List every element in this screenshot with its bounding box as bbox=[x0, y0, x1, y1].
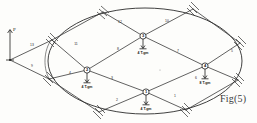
figure-canvas: .ln{stroke:#2e2e2e;stroke-width:0.75;fil… bbox=[0, 0, 257, 123]
diagram-svg: .ln{stroke:#2e2e2e;stroke-width:0.75;fil… bbox=[0, 0, 257, 123]
support-left-lower bbox=[43, 72, 55, 86]
member-label: 9 bbox=[31, 64, 33, 68]
member-label: 10 bbox=[165, 19, 169, 23]
support-right-lower bbox=[232, 73, 244, 87]
figure-caption: Fig(5) bbox=[220, 93, 246, 104]
node-4: 4 8 T.gm bbox=[200, 63, 211, 85]
member-label: 6 bbox=[195, 76, 197, 80]
node-3-load: 4 T.gm bbox=[138, 51, 149, 55]
member-label: 5 bbox=[231, 49, 233, 53]
stray-mark bbox=[160, 70, 161, 71]
member-label: 8 bbox=[117, 47, 119, 51]
member-label: 3 bbox=[111, 76, 113, 80]
node-1-load: 4 T.gm bbox=[141, 107, 152, 111]
force-p-arrow bbox=[6, 30, 14, 61]
member-label: 1 bbox=[174, 94, 176, 98]
member-label: 4 bbox=[69, 71, 71, 75]
supports-group bbox=[43, 2, 246, 119]
node-2: 2 4 T.gm bbox=[82, 67, 93, 89]
support-top-left bbox=[97, 6, 109, 19]
node-1: 1 4 T.gm bbox=[141, 89, 152, 111]
member-labels: 1 2 3 4 5 6 7 8 9 10 11 12 13 bbox=[30, 19, 233, 102]
member-label: 2 bbox=[116, 98, 118, 102]
member-label: 11 bbox=[74, 42, 78, 46]
member-label: 12 bbox=[118, 20, 122, 24]
member-label: 7 bbox=[177, 49, 179, 53]
truss-members bbox=[10, 9, 240, 112]
node-4-load: 8 T.gm bbox=[200, 81, 211, 85]
node-2-load: 4 T.gm bbox=[82, 85, 93, 89]
member-label: 13 bbox=[30, 43, 34, 47]
force-p-label: P bbox=[13, 27, 16, 32]
support-bottom-left bbox=[93, 105, 105, 119]
node-3: 3 4 T.gm bbox=[138, 33, 149, 55]
